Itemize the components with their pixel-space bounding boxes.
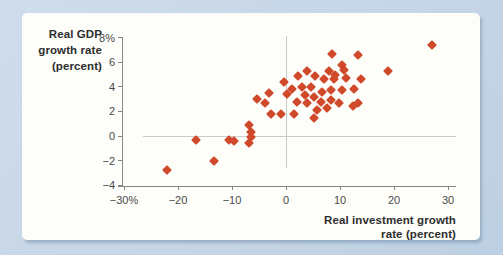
data-point — [266, 109, 276, 119]
x-tick — [394, 186, 395, 190]
y-tick-label: −2 — [81, 155, 115, 167]
y-tick — [118, 62, 122, 63]
y-tick — [118, 185, 122, 186]
y-tick-label: −4 — [81, 179, 115, 191]
page-background: Real GDP growth rate (percent) Real inve… — [0, 0, 503, 255]
data-point — [427, 40, 437, 50]
data-point — [317, 87, 327, 97]
x-tick-label: 30 — [426, 194, 470, 206]
data-point — [349, 84, 359, 94]
data-point — [276, 109, 286, 119]
x-tick — [340, 186, 341, 190]
data-point — [264, 88, 274, 98]
data-point — [327, 49, 337, 59]
data-point — [261, 98, 271, 108]
x-tick-label: −30% — [102, 194, 146, 206]
y-tick-label: 2 — [81, 105, 115, 117]
x-tick-label: 10 — [318, 194, 362, 206]
y-tick — [118, 136, 122, 137]
x-tick-label: 20 — [372, 194, 416, 206]
data-point — [341, 73, 351, 83]
data-point — [289, 109, 299, 119]
data-point — [310, 71, 320, 81]
data-point — [319, 74, 329, 84]
zero-gridline-horizontal — [143, 136, 456, 137]
data-point — [293, 71, 303, 81]
y-tick-label: 6 — [81, 56, 115, 68]
data-point — [209, 156, 219, 166]
data-point — [326, 86, 336, 96]
zero-gridline-vertical — [286, 36, 287, 168]
data-point — [162, 165, 172, 175]
data-point — [356, 74, 366, 84]
x-tick — [232, 186, 233, 190]
x-tick — [178, 186, 179, 190]
y-tick-label: 8% — [81, 32, 115, 44]
y-tick-label: 0 — [81, 130, 115, 142]
data-point — [353, 50, 363, 60]
x-tick — [286, 186, 287, 190]
x-tick-label: 0 — [264, 194, 308, 206]
y-tick — [118, 111, 122, 112]
x-tick — [448, 186, 449, 190]
data-point — [306, 82, 316, 92]
data-point — [383, 66, 393, 76]
x-tick — [124, 186, 125, 190]
plot-area: 8%6420−2−4−30%−20−100102030 — [22, 13, 480, 240]
y-tick — [118, 37, 122, 38]
data-point — [337, 86, 347, 96]
x-tick-label: −20 — [156, 194, 200, 206]
chart-panel: Real GDP growth rate (percent) Real inve… — [22, 13, 480, 240]
y-tick — [118, 160, 122, 161]
data-point — [279, 77, 289, 87]
data-point — [292, 97, 302, 107]
x-axis-line — [118, 186, 456, 187]
x-tick-label: −10 — [210, 194, 254, 206]
y-tick-label: 4 — [81, 81, 115, 93]
y-tick — [118, 86, 122, 87]
